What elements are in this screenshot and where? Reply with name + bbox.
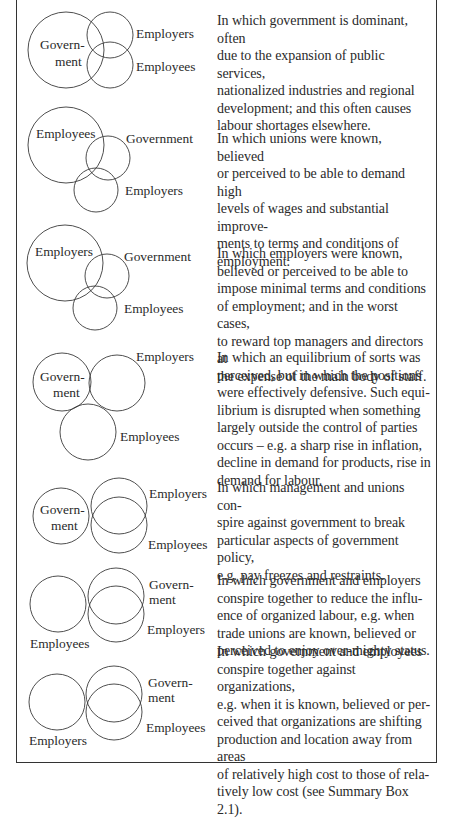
scenario-description: In which government is dominant, often d… [217,12,432,135]
label-government-cont: ment [148,690,175,705]
label-employers: Employers [29,733,87,748]
circle-employees [86,684,142,740]
venn-circles: Employers Govern- ment Employees [0,0,210,777]
circle-government [86,666,142,722]
label-government: Govern- [148,675,193,690]
scenario-description: In which management and unions con- spir… [217,479,432,584]
scenario-description: In which government and employees conspi… [217,643,432,818]
label-employees: Employees [146,720,206,735]
scenario-description: In which an equilibrium of sorts was per… [217,349,432,489]
circle-employers [29,674,85,730]
